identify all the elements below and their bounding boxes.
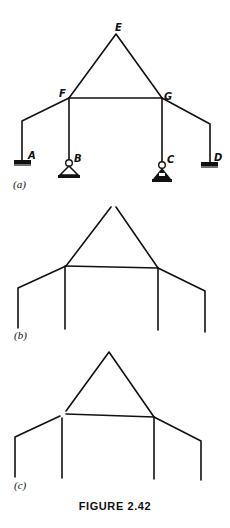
member-right-rafter-b <box>116 207 158 268</box>
member-right-frame <box>162 98 210 162</box>
panel-a: E F G A B C D (a) <box>13 22 222 191</box>
panel-label-c: (c) <box>14 479 27 492</box>
joint-label-e: E <box>115 22 122 33</box>
member-tie-b <box>66 266 158 268</box>
panel-label-a: (a) <box>13 178 26 191</box>
joint-label-a: A <box>27 150 36 161</box>
member-right-frame-b <box>158 268 205 332</box>
member-left-rafter-b <box>66 207 111 266</box>
member-left-frame-c <box>15 416 60 477</box>
joint-label-b: B <box>74 153 82 164</box>
member-left-frame-b <box>18 266 66 328</box>
member-roof-truss-c <box>66 352 154 417</box>
panel-b: (b) <box>14 207 205 342</box>
frame-figure: E F G A B C D (a) (b) (c) <box>0 0 230 528</box>
figure-caption: FIGURE 2.42 <box>0 500 230 512</box>
joint-label-f: F <box>59 88 66 99</box>
panel-c: (c) <box>14 352 201 492</box>
member-roof-truss <box>69 34 162 98</box>
panel-a-members <box>22 34 210 162</box>
member-right-frame-c <box>154 417 201 480</box>
joint-label-g: G <box>164 91 172 102</box>
member-tie-c <box>66 414 154 417</box>
joint-label-d: D <box>214 152 222 163</box>
joint-label-c: C <box>167 154 175 165</box>
panel-label-b: (b) <box>14 329 27 342</box>
